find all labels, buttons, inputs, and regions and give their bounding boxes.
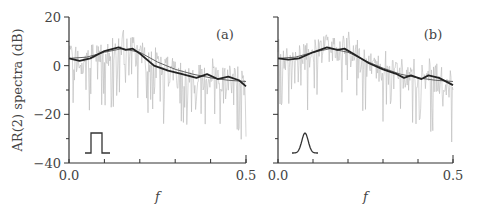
x-tick-label: 0.5 [236,168,257,183]
y-axis-title: AR(2) spectra (dB) [10,28,25,152]
x-tick-label: 0.0 [59,168,80,183]
panel-label: (a) [216,27,234,42]
x-axis-title: f [362,189,370,204]
y-tick-label: 20 [44,10,61,25]
x-axis-title: f [154,189,162,204]
panel-a: −40−200200.00.5f(a) [34,10,257,204]
y-tick-label: −20 [34,107,61,122]
x-tick-label: 0.5 [443,168,464,183]
panel-label: (b) [424,27,442,42]
ar-fit-line [69,49,246,82]
periodogram-line [278,32,453,142]
gaussian-pulse-icon [292,133,318,153]
panel-b: 0.00.5f(b) [268,17,464,204]
figure: AR(2) spectra (dB) −40−200200.00.5f(a) 0… [0,0,478,211]
x-tick-label: 0.0 [268,168,289,183]
y-tick-label: −40 [34,156,61,171]
periodogram-line [69,30,246,139]
rect-pulse-icon [85,133,110,153]
smoothed-line [69,47,246,86]
y-tick-label: 0 [53,59,61,74]
